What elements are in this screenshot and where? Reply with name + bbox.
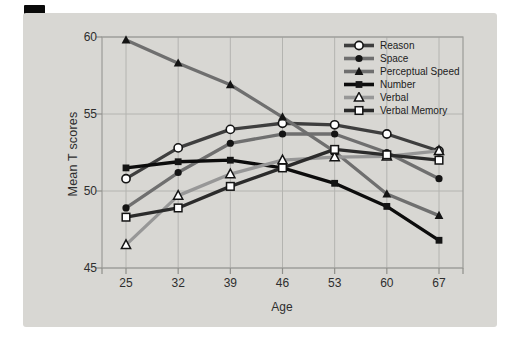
- figure-page: Mean T scores Age 45505560 2532394653606…: [0, 0, 520, 340]
- legend-label: Space: [380, 53, 408, 64]
- x-tick-label: 46: [268, 277, 298, 290]
- data-point-marker: [227, 140, 234, 147]
- data-point-marker: [122, 204, 129, 211]
- legend-triangle-filled-icon: [344, 66, 374, 77]
- legend-item: Space: [344, 52, 460, 65]
- data-point-marker: [435, 156, 443, 164]
- data-point-marker: [227, 157, 234, 164]
- legend-label: Perceptual Speed: [380, 66, 460, 77]
- x-tick-label: 25: [111, 277, 141, 290]
- x-axis-label: Age: [252, 300, 312, 314]
- data-point-marker: [175, 158, 182, 165]
- data-point-marker: [122, 213, 130, 221]
- data-point-marker: [436, 237, 443, 244]
- x-tick-label: 67: [424, 277, 454, 290]
- legend-label: Verbal Memory: [380, 105, 447, 116]
- legend-item: Perceptual Speed: [344, 65, 460, 78]
- data-point-marker: [356, 81, 363, 88]
- data-point-marker: [123, 165, 130, 172]
- data-point-marker: [279, 130, 286, 137]
- data-point-marker: [175, 169, 182, 176]
- legend-circle-filled-icon: [344, 53, 374, 64]
- legend-square-open-icon: [344, 105, 374, 116]
- data-point-marker: [355, 55, 362, 62]
- data-point-marker: [279, 164, 287, 172]
- legend-item: Reason: [344, 39, 460, 52]
- data-point-marker: [331, 121, 339, 129]
- legend-label: Reason: [380, 40, 414, 51]
- x-tick-label: 53: [320, 277, 350, 290]
- y-tick-label: 50: [71, 185, 97, 198]
- data-point-marker: [383, 151, 391, 159]
- x-tick-label: 32: [163, 277, 193, 290]
- x-tick-label: 60: [372, 277, 402, 290]
- legend-label: Number: [380, 79, 416, 90]
- x-tick-label: 39: [215, 277, 245, 290]
- data-point-marker: [226, 125, 234, 133]
- legend-item: Number: [344, 78, 460, 91]
- legend-triangle-open-icon: [344, 92, 374, 103]
- data-point-marker: [174, 204, 182, 212]
- data-point-marker: [435, 175, 442, 182]
- data-point-marker: [331, 130, 338, 137]
- y-tick-label: 60: [71, 31, 97, 44]
- data-point-marker: [331, 180, 338, 187]
- legend-item: Verbal Memory: [344, 104, 460, 117]
- data-point-marker: [383, 130, 391, 138]
- data-point-marker: [355, 107, 363, 115]
- data-point-marker: [383, 203, 390, 210]
- data-point-marker: [331, 146, 339, 154]
- data-point-marker: [122, 175, 130, 183]
- data-point-marker: [355, 41, 363, 49]
- data-point-marker: [227, 183, 235, 191]
- legend-square-filled-icon: [344, 79, 374, 90]
- legend: ReasonSpacePerceptual SpeedNumberVerbalV…: [344, 39, 460, 117]
- y-tick-label: 45: [71, 262, 97, 275]
- legend-circle-open-icon: [344, 40, 374, 51]
- data-point-marker: [174, 144, 182, 152]
- y-tick-label: 55: [71, 108, 97, 121]
- legend-label: Verbal: [380, 92, 408, 103]
- legend-item: Verbal: [344, 91, 460, 104]
